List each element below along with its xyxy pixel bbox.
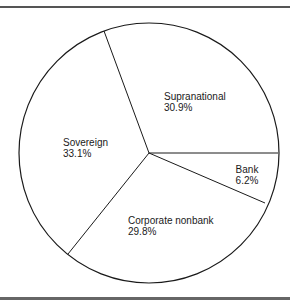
pie-chart (0, 0, 290, 301)
slice-value: 29.8% (128, 226, 214, 237)
slice-label-bank: Bank 6.2% (229, 164, 265, 186)
slice-label-sovereign: Sovereign 33.1% (63, 137, 108, 159)
slice-label-supranational: Supranational 30.9% (164, 91, 226, 113)
slice-value: 6.2% (229, 175, 265, 186)
bottom-rule (0, 297, 290, 300)
slice-value: 30.9% (164, 102, 226, 113)
slice-name: Bank (229, 164, 265, 175)
slice-label-corporate-nonbank: Corporate nonbank 29.8% (128, 215, 214, 237)
slice-name: Supranational (164, 91, 226, 102)
slice-name: Sovereign (63, 137, 108, 148)
slice-value: 33.1% (63, 148, 108, 159)
slice-name: Corporate nonbank (128, 215, 214, 226)
